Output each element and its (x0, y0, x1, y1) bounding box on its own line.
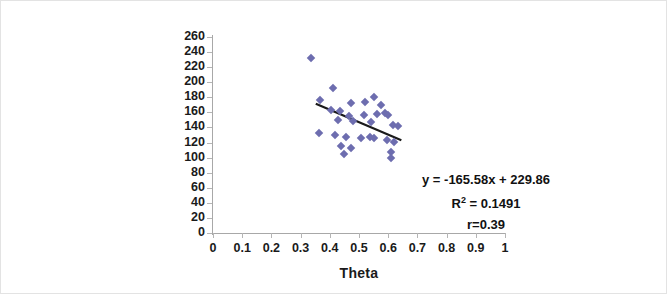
y-tick-mark (207, 37, 212, 38)
x-tick-mark (242, 233, 243, 238)
y-tick-label: 200 (159, 76, 205, 87)
y-tick-mark (207, 173, 212, 174)
regression-equation: y = -165.58x + 229.86 (361, 169, 611, 190)
y-tick-mark (207, 127, 212, 128)
r-squared-value: = 0.1491 (470, 196, 521, 211)
y-tick-label: 100 (159, 152, 205, 163)
x-tick-mark (213, 233, 214, 238)
y-tick-label: 0 (159, 227, 205, 238)
x-tick-mark (271, 233, 272, 238)
y-tick-label: 80 (159, 167, 205, 178)
x-tick-mark (301, 233, 302, 238)
y-tick-label: 220 (159, 61, 205, 72)
y-tick-label: 20 (159, 212, 205, 223)
y-tick-label: 240 (159, 46, 205, 57)
chart-figure: Single Fiber Linear density(mtex) 260240… (0, 0, 667, 294)
y-tick-mark (207, 67, 212, 68)
correlation-coefficient: r=0.39 (361, 214, 611, 235)
y-axis-title-line-2: density(mtex) (126, 0, 143, 31)
y-tick-label: 60 (159, 182, 205, 193)
y-tick-mark (207, 143, 212, 144)
y-tick-label: 160 (159, 106, 205, 117)
y-tick-label: 120 (159, 137, 205, 148)
y-tick-mark (207, 97, 212, 98)
y-tick-mark (207, 82, 212, 83)
y-tick-mark (207, 233, 212, 234)
y-tick-label: 180 (159, 91, 205, 102)
y-axis-title-line-1: Single Fiber Linear (109, 0, 126, 31)
y-tick-label: 40 (159, 197, 205, 208)
y-tick-mark (207, 112, 212, 113)
y-tick-label: 140 (159, 121, 205, 132)
y-tick-label: 260 (159, 31, 205, 42)
y-tick-mark (207, 52, 212, 53)
y-tick-mark (207, 203, 212, 204)
r-squared-symbol: R (452, 196, 461, 211)
y-tick-mark (207, 218, 212, 219)
chart-annotations: y = -165.58x + 229.86 R2 = 0.1491 r=0.39 (361, 169, 611, 235)
y-tick-mark (207, 188, 212, 189)
x-tick-mark (359, 233, 360, 238)
x-tick-mark (330, 233, 331, 238)
x-tick-label: 1 (485, 241, 525, 255)
r-squared-exponent: 2 (461, 195, 466, 205)
y-axis-title: Single Fiber Linear density(mtex) (109, 0, 145, 31)
x-axis-title: Theta (213, 265, 505, 281)
y-tick-mark (207, 158, 212, 159)
r-squared: R2 = 0.1491 (361, 190, 611, 214)
